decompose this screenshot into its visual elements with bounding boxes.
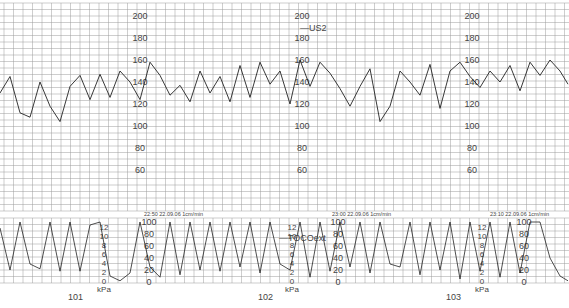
kpa-tick-8: 8 xyxy=(480,241,485,250)
fhr-tick-180: 180 xyxy=(464,33,479,43)
toco-tick-80: 80 xyxy=(144,229,154,239)
fhr-tick-80: 80 xyxy=(467,143,477,153)
fhr-tick-100: 100 xyxy=(464,121,479,131)
toco-tick-100: 100 xyxy=(330,217,345,227)
fhr-tick-60: 60 xyxy=(297,165,307,175)
timestamp-2: 23:00 22.09.06 1cm/min xyxy=(332,211,391,217)
fhr-tick-120: 120 xyxy=(464,99,479,109)
timestamp-1: 22:50 22.09.06 1cm/min xyxy=(144,211,203,217)
toco-channel-label: —TOCOext xyxy=(279,233,326,243)
fhr-tick-200: 200 xyxy=(294,11,309,21)
fhr-tick-160: 160 xyxy=(294,55,309,65)
fhr-tick-160: 160 xyxy=(132,55,147,65)
kpa-tick-12: 12 xyxy=(288,223,297,232)
fhr-tick-100: 100 xyxy=(132,121,147,131)
toco-tick-60: 60 xyxy=(519,241,529,251)
fhr-tick-160: 160 xyxy=(464,55,479,65)
page-number-103: 103 xyxy=(446,292,461,302)
page-number-102: 102 xyxy=(258,292,273,302)
fhr-tick-80: 80 xyxy=(297,143,307,153)
toco-tick-0: 0 xyxy=(521,277,526,287)
toco-tick-20: 20 xyxy=(333,265,343,275)
kpa-unit-label: kPa xyxy=(475,285,489,294)
fhr-tick-180: 180 xyxy=(294,33,309,43)
kpa-tick-10: 10 xyxy=(100,232,109,241)
ctg-chart: 2002002001801801801601601601401401401201… xyxy=(0,0,569,308)
kpa-tick-10: 10 xyxy=(478,232,487,241)
toco-tick-40: 40 xyxy=(333,253,343,263)
fhr-grid xyxy=(0,3,569,211)
kpa-unit-label: kPa xyxy=(285,285,299,294)
toco-tick-0: 0 xyxy=(335,277,340,287)
fhr-tick-60: 60 xyxy=(135,165,145,175)
kpa-tick-4: 4 xyxy=(102,259,107,268)
kpa-tick-2: 2 xyxy=(102,268,107,277)
timestamp-3: 23:10 22.09.06 1cm/min xyxy=(490,211,549,217)
kpa-tick-12: 12 xyxy=(478,223,487,232)
fhr-tick-100: 100 xyxy=(294,121,309,131)
fhr-tick-180: 180 xyxy=(132,33,147,43)
toco-tick-0: 0 xyxy=(146,277,151,287)
fhr-tick-200: 200 xyxy=(464,11,479,21)
fhr-tick-120: 120 xyxy=(294,99,309,109)
toco-tick-100: 100 xyxy=(141,217,156,227)
page-number-101: 101 xyxy=(68,292,83,302)
fhr-trace xyxy=(0,60,568,122)
kpa-unit-label: kPa xyxy=(97,285,111,294)
us2-channel-label: —US2 xyxy=(300,23,327,33)
fhr-tick-80: 80 xyxy=(135,143,145,153)
fhr-tick-200: 200 xyxy=(132,11,147,21)
fhr-tick-60: 60 xyxy=(467,165,477,175)
